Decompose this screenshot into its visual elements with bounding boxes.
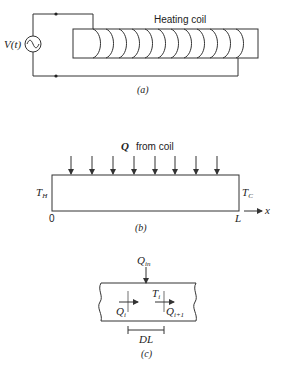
top-wire xyxy=(33,14,93,36)
bottom-junction-dot xyxy=(54,74,57,77)
figure-a-circuit: V(t) Heating coil (a) xyxy=(4,12,258,96)
top-junction-dot xyxy=(54,12,57,15)
node-temp-label: Ti xyxy=(152,287,160,301)
left-break-line xyxy=(99,283,102,321)
figure-c-control-volume: Qin Qi Ti Qi+1 DL (c) xyxy=(99,254,197,360)
origin-label: 0 xyxy=(49,213,55,224)
length-label: L xyxy=(234,212,241,224)
hot-end-temp-label: TH xyxy=(36,186,48,200)
heating-rod-diagram: V(t) Heating coil (a) Q from coil xyxy=(0,0,282,371)
figure-b-rod-model: Q from coil TH TC 0 L x (b) xyxy=(36,136,270,234)
heating-coil-label: Heating coil xyxy=(154,14,206,25)
cold-end-temp-label: TC xyxy=(242,186,253,200)
flux-in-label: Qi xyxy=(116,305,126,319)
heat-input-label: Q from coil xyxy=(121,136,174,153)
right-break-line xyxy=(194,283,197,321)
x-axis-label: x xyxy=(264,204,270,216)
caption-a: (a) xyxy=(137,84,149,96)
caption-c: (c) xyxy=(141,348,153,360)
voltage-source-label: V(t) xyxy=(4,38,21,51)
heating-coil xyxy=(93,29,244,58)
ac-source-icon xyxy=(25,36,41,52)
heat-in-label: Qin xyxy=(137,254,151,268)
rod-domain xyxy=(52,175,239,211)
segment-length-label: DL xyxy=(138,333,153,345)
flux-out-label: Qi+1 xyxy=(166,305,184,319)
heat-arrows xyxy=(71,156,217,174)
caption-b: (b) xyxy=(135,222,147,234)
